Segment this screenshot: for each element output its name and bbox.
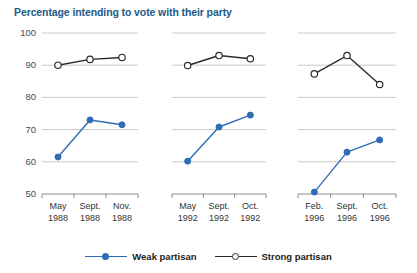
x-axis-tick-label: Nov.1988 (112, 201, 132, 224)
data-point-strong-partisan (247, 56, 253, 62)
x-tick-year: 1988 (112, 213, 132, 225)
legend-entry: Weak partisan (85, 251, 196, 262)
x-axis-tick-label: May1992 (178, 201, 198, 224)
legend-swatch (215, 251, 257, 261)
x-tick-year: 1992 (240, 213, 260, 225)
series-line-weak-partisan (58, 120, 122, 157)
x-tick-month: Nov. (113, 201, 131, 211)
x-tick-month: Oct. (371, 201, 388, 211)
x-tick-month: May (179, 201, 196, 211)
data-point-weak-partisan (247, 112, 253, 118)
data-point-strong-partisan (87, 56, 93, 62)
x-tick-month: May (49, 201, 66, 211)
x-tick-month: Sept. (208, 201, 229, 211)
x-tick-month: Feb. (305, 201, 323, 211)
data-point-weak-partisan (216, 124, 222, 130)
legend-marker (232, 253, 239, 260)
legend-label: Weak partisan (132, 251, 196, 262)
data-point-strong-partisan (119, 54, 125, 60)
data-point-strong-partisan (184, 62, 190, 68)
data-point-weak-partisan (119, 122, 125, 128)
data-point-weak-partisan (55, 154, 61, 160)
x-axis-tick-label: May1988 (48, 201, 68, 224)
x-tick-year: 1988 (48, 213, 68, 225)
x-axis-tick-label: Feb.1996 (304, 201, 324, 224)
data-point-strong-partisan (55, 62, 61, 68)
series-line-weak-partisan (314, 140, 379, 192)
series-line-strong-partisan (314, 56, 379, 85)
y-axis-tick-label: 90 (12, 59, 36, 70)
legend-label: Strong partisan (262, 251, 332, 262)
data-point-strong-partisan (216, 52, 222, 58)
y-axis-tick-label: 50 (12, 188, 36, 199)
data-point-weak-partisan (311, 189, 317, 195)
data-point-weak-partisan (87, 117, 93, 123)
chart-legend: Weak partisanStrong partisan (0, 245, 417, 267)
legend-swatch (85, 251, 127, 261)
x-axis-tick-label: Sept.1988 (79, 201, 100, 224)
x-tick-year: 1996 (370, 213, 390, 225)
axis-lines (42, 194, 396, 198)
x-tick-month: Sept. (79, 201, 100, 211)
x-tick-year: 1992 (208, 213, 229, 225)
legend-entry: Strong partisan (215, 251, 332, 262)
x-axis-tick-label: Sept.1992 (208, 201, 229, 224)
x-tick-year: 1996 (336, 213, 357, 225)
data-point-weak-partisan (344, 149, 350, 155)
plot-area (0, 0, 417, 273)
data-point-strong-partisan (344, 52, 350, 58)
legend-marker (102, 253, 109, 260)
y-axis-tick-label: 100 (12, 27, 36, 38)
y-axis-tick-label: 80 (12, 91, 36, 102)
data-point-weak-partisan (377, 137, 383, 143)
x-axis-tick-label: Oct.1996 (370, 201, 390, 224)
x-tick-year: 1988 (79, 213, 100, 225)
data-point-strong-partisan (311, 71, 317, 77)
x-tick-month: Oct. (242, 201, 259, 211)
data-point-strong-partisan (376, 81, 382, 87)
x-axis-tick-label: Oct.1992 (240, 201, 260, 224)
chart-figure: Percentage intending to vote with their … (0, 0, 417, 273)
data-point-weak-partisan (185, 158, 191, 164)
x-axis-tick-label: Sept.1996 (336, 201, 357, 224)
x-tick-year: 1992 (178, 213, 198, 225)
y-axis-tick-label: 60 (12, 156, 36, 167)
x-tick-year: 1996 (304, 213, 324, 225)
y-axis-tick-label: 70 (12, 124, 36, 135)
series-line-weak-partisan (188, 115, 251, 161)
x-tick-month: Sept. (336, 201, 357, 211)
data-series (55, 52, 383, 195)
